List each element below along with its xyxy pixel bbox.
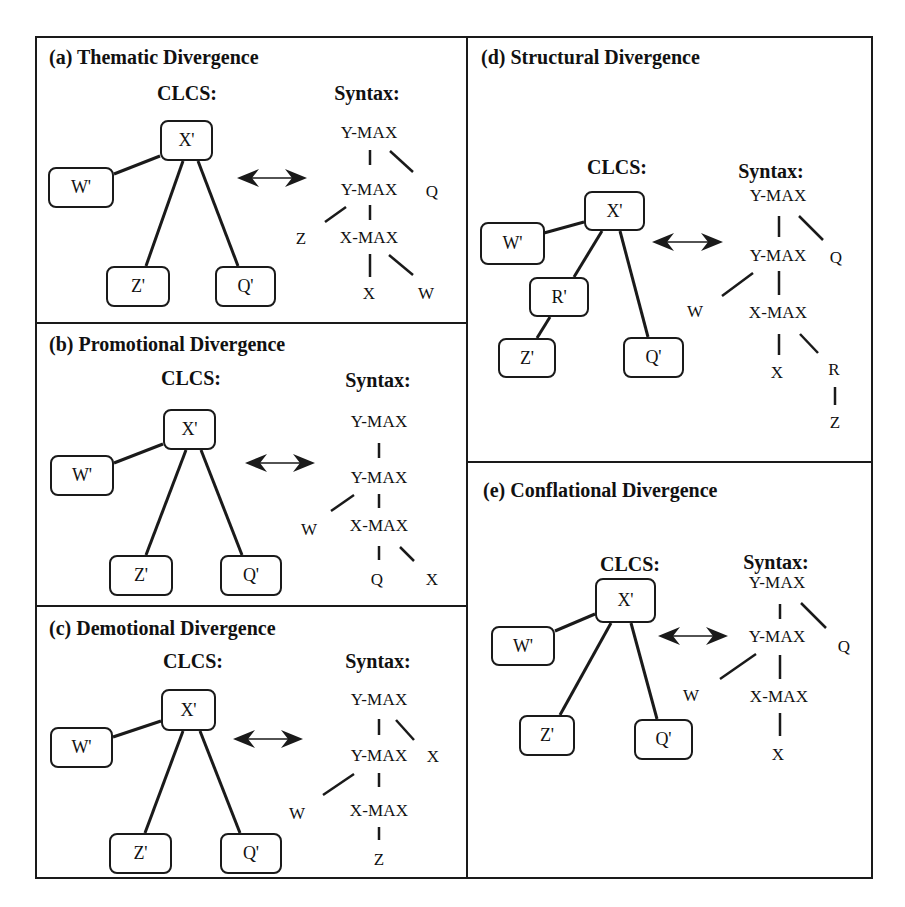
syntax-node: R	[828, 360, 840, 380]
clcs-node: W'	[50, 455, 114, 496]
clcs-node: X'	[161, 689, 216, 731]
syntax-node: X-MAX	[340, 228, 399, 248]
clcs-header: CLCS:	[161, 367, 221, 390]
syntax-node: Q	[426, 182, 438, 202]
clcs-node: Q'	[215, 266, 276, 307]
clcs-node: Z'	[519, 715, 575, 756]
syntax-node: Y-MAX	[351, 746, 408, 766]
divider-a-b	[35, 322, 467, 324]
syntax-node: W	[289, 804, 305, 824]
clcs-node: W'	[50, 727, 113, 768]
panel-title: (a) Thematic Divergence	[49, 46, 259, 69]
syntax-node: W	[683, 686, 699, 706]
clcs-node: X'	[584, 191, 645, 231]
clcs-node: Q'	[220, 833, 282, 874]
panel-title: (e) Conflational Divergence	[483, 479, 717, 502]
syntax-node: W	[418, 284, 434, 304]
syntax-node: Y-MAX	[749, 573, 806, 593]
syntax-node: W	[687, 302, 703, 322]
clcs-node: Q'	[634, 719, 693, 760]
syntax-node: X	[772, 745, 784, 765]
syntax-header: Syntax:	[743, 551, 809, 574]
syntax-node: X-MAX	[750, 687, 809, 707]
clcs-node: Z'	[109, 833, 172, 874]
clcs-node: X'	[160, 120, 213, 161]
clcs-node: X'	[595, 578, 656, 623]
clcs-node: X'	[163, 409, 216, 450]
panel-title: (d) Structural Divergence	[481, 46, 700, 69]
syntax-node: X	[363, 284, 375, 304]
syntax-node: Q	[830, 248, 842, 268]
clcs-node: Z'	[498, 338, 556, 378]
clcs-node: W'	[48, 167, 114, 208]
syntax-node: Y-MAX	[750, 186, 807, 206]
clcs-node: W'	[491, 626, 555, 666]
syntax-node: Q	[838, 637, 850, 657]
clcs-node: Z'	[106, 266, 170, 307]
syntax-header: Syntax:	[738, 160, 804, 183]
syntax-header: Syntax:	[345, 369, 411, 392]
clcs-node: R'	[529, 277, 589, 317]
syntax-node: X-MAX	[350, 516, 409, 536]
syntax-node: Y-MAX	[351, 690, 408, 710]
syntax-node: Y-MAX	[341, 180, 398, 200]
syntax-node: Y-MAX	[351, 412, 408, 432]
clcs-node: Q'	[220, 555, 282, 596]
panel-title: (c) Demotional Divergence	[49, 617, 276, 640]
divider-d-e	[467, 461, 873, 463]
divergence-figure: (a) Thematic Divergence CLCS: Syntax: X'…	[0, 0, 905, 907]
syntax-node: X	[426, 570, 438, 590]
clcs-header: CLCS:	[163, 650, 223, 673]
syntax-node: Y-MAX	[341, 123, 398, 143]
syntax-node: Z	[296, 229, 307, 249]
clcs-node: Q'	[623, 337, 684, 378]
syntax-node: X	[771, 363, 783, 383]
syntax-node: Y-MAX	[750, 246, 807, 266]
vertical-divider	[466, 36, 468, 879]
syntax-node: Q	[371, 570, 383, 590]
syntax-node: X-MAX	[350, 801, 409, 821]
syntax-node: Z	[830, 413, 841, 433]
clcs-node: W'	[480, 222, 545, 265]
clcs-node: Z'	[109, 555, 173, 596]
divider-b-c	[35, 605, 467, 607]
syntax-node: X	[427, 747, 439, 767]
syntax-node: X-MAX	[749, 303, 808, 323]
syntax-node: Y-MAX	[351, 468, 408, 488]
clcs-header: CLCS:	[587, 156, 647, 179]
syntax-header: Syntax:	[345, 650, 411, 673]
syntax-node: Y-MAX	[749, 627, 806, 647]
clcs-header: CLCS:	[600, 553, 660, 576]
panel-title: (b) Promotional Divergence	[49, 333, 285, 356]
clcs-header: CLCS:	[157, 82, 217, 105]
syntax-node: W	[301, 520, 317, 540]
syntax-node: Z	[374, 850, 385, 870]
syntax-header: Syntax:	[334, 82, 400, 105]
